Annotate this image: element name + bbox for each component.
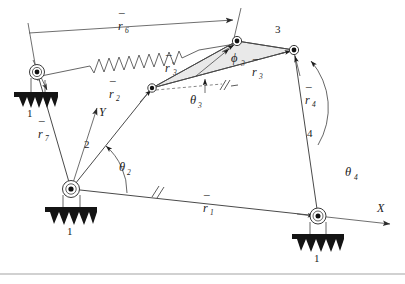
label-r6-symbol: r — [118, 19, 123, 33]
label-axis-x: X — [376, 201, 385, 215]
pivot-crank-ground — [63, 181, 80, 198]
joint-coupler-left — [148, 84, 156, 92]
label-phi3-subscript: 3 — [240, 59, 245, 68]
label-link-4: 4 — [307, 127, 313, 139]
label-link-1-upper-left: 1 — [27, 107, 33, 119]
label-r3-subscript: 3 — [258, 72, 263, 81]
joint-coupler-apex — [232, 36, 241, 45]
x-axis-arrow — [318, 216, 390, 224]
joint-coupler-rocker — [289, 45, 298, 54]
pivot-upper-left-ground — [30, 65, 45, 80]
label-r2-symbol: r — [109, 87, 114, 101]
label-r4: ¯ r 4 — [305, 87, 316, 109]
label-theta4-subscript: 4 — [354, 173, 358, 182]
label-r2: ¯ r 2 — [109, 81, 120, 103]
ground-hatch-bottom-right — [292, 222, 344, 252]
label-r3p-subscript: 3 — [172, 68, 177, 77]
parallel-tick-r1 — [152, 186, 164, 198]
link-4-rocker — [294, 50, 318, 216]
label-r6: ¯ r 6 — [118, 13, 129, 35]
kinematic-diagram-figure: ¯ r 6 ¯ r ′ 3 ¯ r 3 ¯ r 4 ¯ r 2 — [0, 0, 405, 284]
label-r1: ¯ r 1 — [203, 195, 214, 217]
label-theta2-subscript: 2 — [127, 168, 131, 177]
label-r7: ¯ r 7 — [38, 121, 49, 143]
label-theta2: θ 2 — [119, 160, 131, 177]
label-link-2: 2 — [84, 138, 90, 150]
label-link-3: 3 — [275, 23, 281, 35]
label-r7-symbol: r — [38, 127, 43, 141]
label-phi3-symbol: ϕ — [231, 51, 238, 65]
label-theta4: θ 4 — [345, 165, 358, 182]
label-r1-subscript: 1 — [210, 208, 214, 217]
label-r3-symbol: r — [252, 65, 257, 79]
label-axis-y: Y — [99, 105, 107, 119]
label-r4-subscript: 4 — [312, 100, 316, 109]
label-r7-subscript: 7 — [45, 134, 49, 143]
label-theta3-subscript: 3 — [197, 101, 202, 110]
theta3-reference-line — [156, 84, 222, 90]
label-r1-symbol: r — [203, 201, 208, 215]
label-theta3-symbol: θ — [190, 93, 196, 107]
label-theta4-symbol: θ — [345, 165, 351, 179]
label-r3: ¯ r 3 — [252, 59, 263, 81]
label-theta3: θ 3 — [190, 93, 202, 110]
parallel-tick-theta3 — [220, 80, 238, 90]
label-theta2-symbol: θ — [119, 160, 125, 174]
label-link-1-bottom-right: 1 — [314, 252, 320, 264]
label-r3p-symbol: r — [165, 61, 170, 75]
ground-hatch-bottom-left — [45, 195, 97, 225]
label-r2-subscript: 2 — [116, 94, 120, 103]
label-link-1-bottom-left: 1 — [67, 225, 73, 237]
label-r6-subscript: 6 — [125, 26, 129, 35]
link-1-ground — [71, 189, 318, 216]
pivot-rocker-ground — [310, 208, 326, 224]
mechanism-svg-canvas: ¯ r 6 ¯ r ′ 3 ¯ r 3 ¯ r 4 ¯ r 2 — [0, 0, 405, 284]
label-r4-symbol: r — [305, 93, 310, 107]
